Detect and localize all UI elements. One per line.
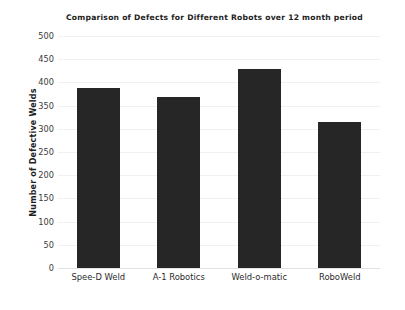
gridline: [58, 82, 380, 83]
chart-title: Comparison of Defects for Different Robo…: [66, 13, 356, 22]
y-axis-tick-label: 450: [0, 54, 54, 64]
y-axis-tick-label: 300: [0, 124, 54, 134]
gridline: [58, 268, 380, 269]
y-axis-tick-label: 150: [0, 193, 54, 203]
x-axis-tick-label: Spee-D Weld: [71, 272, 125, 282]
y-axis-tick-label: 100: [0, 217, 54, 227]
plot-area: [58, 36, 380, 268]
x-axis-tick-label: Weld-o-matic: [231, 272, 287, 282]
y-axis-title: Number of Defective Welds: [29, 73, 38, 233]
x-axis-tick-label: A-1 Robotics: [153, 272, 205, 282]
bar[interactable]: [157, 97, 200, 268]
bar-chart: Comparison of Defects for Different Robo…: [0, 0, 405, 310]
x-axis-tick-labels: Spee-D WeldA-1 RoboticsWeld-o-maticRoboW…: [58, 272, 380, 292]
y-axis-tick-label: 200: [0, 170, 54, 180]
y-axis-tick-label: 400: [0, 77, 54, 87]
y-axis-tick-label: 350: [0, 101, 54, 111]
x-axis-tick-label: RoboWeld: [319, 272, 361, 282]
bar[interactable]: [77, 88, 120, 268]
gridline: [58, 36, 380, 37]
y-axis-tick-label: 0: [0, 263, 54, 273]
bar[interactable]: [238, 69, 281, 268]
y-axis-tick-label: 500: [0, 31, 54, 41]
gridline: [58, 59, 380, 60]
bar[interactable]: [318, 122, 361, 268]
y-axis-tick-label: 50: [0, 240, 54, 250]
y-axis-tick-label: 250: [0, 147, 54, 157]
